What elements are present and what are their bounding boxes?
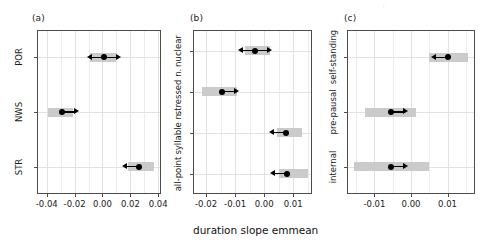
y-axis-tick xyxy=(344,112,347,113)
panel-tag: (c) xyxy=(344,13,356,23)
y-axis-tick xyxy=(344,57,347,58)
panel-c: (c)self-standingpre-pausalinternal-0.010… xyxy=(0,0,482,247)
x-axis-tick xyxy=(374,194,375,197)
y-axis-tick xyxy=(344,167,347,168)
comparison-arrow-left xyxy=(435,57,448,59)
y-axis-label: self-standing xyxy=(328,30,338,85)
arrowhead-right xyxy=(403,108,408,114)
arrowhead-left xyxy=(431,54,436,60)
figure-canvas: ᵎ (a)PORNWSSTR-0.04-0.020.000.020.04(b)n… xyxy=(0,0,482,247)
x-axis-title: duration slope emmean xyxy=(193,224,312,236)
x-axis-tick xyxy=(411,194,412,197)
y-axis-label: pre-pausal xyxy=(328,90,338,135)
x-axis-tick-label: 0.01 xyxy=(428,199,468,209)
arrowhead-right xyxy=(403,163,408,169)
x-axis-tick xyxy=(448,194,449,197)
y-axis-label: internal xyxy=(328,150,338,183)
x-axis-tick-label: -0.01 xyxy=(354,199,394,209)
x-axis-tick-label: 0.00 xyxy=(391,199,431,209)
